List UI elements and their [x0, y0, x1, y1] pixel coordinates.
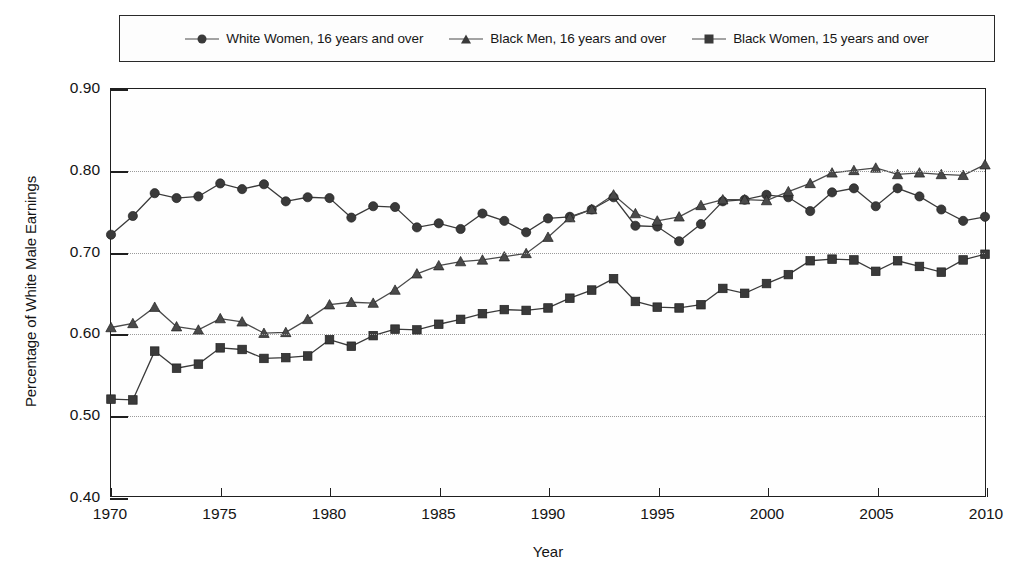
data-series [107, 250, 990, 404]
data-point-marker [783, 186, 793, 195]
plot-area [110, 88, 986, 497]
data-point-marker [216, 344, 225, 353]
data-point-marker [806, 256, 815, 265]
data-point-marker [302, 314, 312, 323]
x-tick-label: 1980 [312, 505, 346, 523]
data-point-marker [522, 228, 531, 237]
data-point-marker [893, 184, 902, 193]
data-point-marker [805, 178, 815, 187]
y-tick-label: 0.90 [38, 79, 100, 97]
series-layer [111, 89, 985, 496]
y-axis-title: Percentage of White Male Earnings [22, 0, 39, 583]
data-point-marker [128, 211, 137, 220]
y-tick-mark [110, 253, 128, 255]
y-tick-label: 0.70 [38, 243, 100, 261]
data-point-marker [325, 335, 334, 344]
data-point-marker [893, 256, 902, 265]
x-tick-mark [111, 488, 112, 497]
data-point-marker [675, 237, 684, 246]
data-point-marker [259, 180, 268, 189]
x-tick-label: 1990 [531, 505, 565, 523]
data-point-marker [696, 220, 705, 229]
y-tick-mark [110, 89, 128, 91]
data-point-marker [566, 294, 575, 303]
x-axis-title: Year [110, 543, 986, 560]
gridline-y [111, 253, 985, 254]
data-point-marker [172, 364, 181, 373]
data-point-marker [412, 223, 421, 232]
data-point-marker [456, 315, 465, 324]
data-point-marker [434, 219, 443, 228]
y-tick-mark [110, 334, 128, 336]
data-point-marker [500, 305, 509, 314]
legend-label-white-women: White Women, 16 years and over [226, 31, 423, 46]
data-point-marker [544, 304, 553, 313]
data-point-marker [914, 168, 924, 177]
data-point-marker [216, 179, 225, 188]
data-point-marker [631, 297, 640, 306]
legend-entry-white-women: White Women, 16 years and over [185, 31, 423, 46]
data-point-marker [107, 395, 116, 404]
data-point-marker [303, 193, 312, 202]
x-tick-mark [330, 488, 331, 497]
data-point-marker [194, 360, 203, 369]
data-point-marker [762, 279, 771, 288]
data-point-marker [674, 212, 684, 221]
data-point-marker [675, 304, 684, 313]
data-point-marker [827, 188, 836, 197]
data-point-marker [500, 216, 509, 225]
x-tick-mark [659, 488, 660, 497]
data-point-marker [150, 302, 160, 311]
y-tick-label: 0.40 [38, 488, 100, 506]
data-point-marker [325, 193, 334, 202]
chart-legend: White Women, 16 years and over Black Men… [119, 15, 995, 62]
data-point-marker [937, 268, 946, 277]
legend-marker-circle-icon [185, 32, 219, 46]
x-tick-label: 1995 [640, 505, 674, 523]
data-point-marker [150, 189, 159, 198]
data-point-marker [850, 256, 859, 265]
data-point-marker [980, 212, 989, 221]
data-point-marker [456, 224, 465, 233]
data-point-marker [413, 326, 422, 335]
earnings-ratio-chart-figure: White Women, 16 years and over Black Men… [0, 0, 1023, 583]
data-point-marker [434, 320, 443, 329]
data-point-marker [806, 207, 815, 216]
data-point-marker [981, 250, 990, 259]
data-point-marker [412, 269, 422, 278]
x-tick-mark [440, 488, 441, 497]
legend-label-black-women: Black Women, 15 years and over [733, 31, 929, 46]
data-point-marker [129, 396, 138, 405]
data-point-marker [697, 300, 706, 309]
data-point-marker [390, 202, 399, 211]
x-tick-label: 2000 [750, 505, 784, 523]
data-point-marker [282, 353, 291, 362]
data-point-marker [215, 313, 225, 322]
data-point-marker [172, 193, 181, 202]
data-point-marker [609, 274, 618, 283]
data-point-marker [303, 352, 312, 361]
x-tick-label: 1985 [421, 505, 455, 523]
data-point-marker [522, 306, 531, 315]
gridline-y [111, 334, 985, 335]
x-tick-mark [878, 488, 879, 497]
data-point-marker [653, 303, 662, 312]
x-tick-mark [549, 488, 550, 497]
data-point-marker [391, 325, 400, 334]
x-tick-label: 2010 [969, 505, 1003, 523]
data-point-marker [543, 214, 552, 223]
data-point-marker [915, 192, 924, 201]
data-point-marker [631, 221, 640, 230]
data-point-marker [959, 256, 968, 265]
data-point-marker [150, 347, 159, 356]
data-point-marker [784, 270, 793, 279]
data-point-marker [390, 285, 400, 294]
data-point-marker [871, 202, 880, 211]
y-tick-mark [110, 498, 128, 500]
y-tick-label: 0.50 [38, 406, 100, 424]
legend-marker-triangle-icon [449, 32, 483, 46]
data-point-marker [828, 255, 837, 264]
x-tick-mark [987, 488, 988, 497]
data-point-marker [347, 213, 356, 222]
gridline-y [111, 416, 985, 417]
